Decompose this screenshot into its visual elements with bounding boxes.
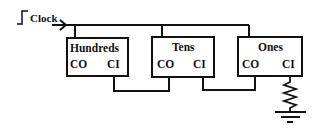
clock-label: Clock bbox=[30, 12, 58, 24]
counter-name: Hundreds bbox=[70, 42, 120, 54]
ci-label: CI bbox=[282, 58, 295, 70]
ci-label: CI bbox=[107, 58, 120, 70]
co-label: CO bbox=[70, 58, 87, 70]
counter-diagram: Clock Hundreds CO CI Tens CO CI Ones CO … bbox=[0, 0, 323, 135]
counter-tens: Tens CO CI bbox=[152, 37, 214, 77]
counter-name: Tens bbox=[172, 41, 195, 53]
clock-pulse-icon bbox=[17, 11, 28, 24]
counter-hundreds: Hundreds CO CI bbox=[67, 38, 128, 76]
co-label: CO bbox=[157, 58, 174, 70]
clock-bus bbox=[52, 20, 249, 38]
counter-ones: Ones CO CI bbox=[238, 37, 302, 76]
co-label: CO bbox=[242, 58, 259, 70]
carry-wires bbox=[114, 76, 255, 91]
counter-name: Ones bbox=[258, 41, 283, 53]
resistor-icon bbox=[284, 76, 296, 112]
ci-label: CI bbox=[193, 58, 206, 70]
ground-icon bbox=[275, 112, 306, 122]
